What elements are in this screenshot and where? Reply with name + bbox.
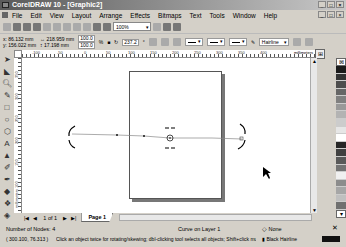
end-arrow-dropdown[interactable] — [229, 38, 247, 46]
color-swatch[interactable] — [336, 172, 346, 180]
print-icon[interactable] — [33, 23, 41, 31]
corel-online-icon[interactable] — [163, 23, 171, 31]
convert-outline-icon[interactable] — [305, 38, 313, 46]
menu-layout[interactable]: Layout — [72, 12, 92, 19]
color-swatch[interactable] — [336, 202, 346, 210]
color-swatch[interactable] — [336, 187, 346, 195]
color-swatch[interactable] — [336, 195, 346, 203]
ruler-tick: 300 — [14, 93, 19, 100]
horizontal-ruler[interactable]: -100 -50 0 50 100 150 200 250 300 350 40… — [22, 50, 315, 58]
ruler-origin[interactable] — [14, 50, 22, 58]
scale-x-field[interactable]: 100.0 — [78, 35, 95, 42]
cut-icon[interactable] — [43, 23, 51, 31]
doc-close-button[interactable]: × — [336, 11, 344, 18]
menu-tools[interactable]: Tools — [210, 12, 225, 19]
vertical-scrollbar[interactable]: ▲ ▼ — [310, 58, 317, 213]
prev-page-icon[interactable]: ◀ — [31, 215, 39, 221]
doc-minimize-button[interactable]: _ — [318, 11, 326, 18]
y-position-field[interactable]: 156.022 mm — [8, 42, 36, 48]
zoom-level-dropdown[interactable]: 100% — [113, 22, 151, 31]
height-field[interactable]: 17.198 mm — [44, 42, 69, 48]
whats-this-icon[interactable] — [173, 23, 181, 31]
color-swatch[interactable] — [336, 96, 346, 104]
menu-view[interactable]: View — [50, 12, 64, 19]
scroll-up-icon[interactable]: ▲ — [311, 58, 318, 64]
no-color-swatch[interactable]: ⊠ — [336, 58, 346, 66]
minimize-button[interactable]: _ — [318, 1, 326, 8]
color-swatch[interactable] — [336, 104, 346, 112]
first-page-icon[interactable]: |◀ — [22, 215, 31, 221]
selected-curve[interactable] — [22, 58, 310, 213]
color-swatch[interactable] — [336, 134, 346, 142]
drawing-canvas[interactable] — [22, 58, 310, 213]
undo-icon[interactable] — [73, 23, 81, 31]
menu-bitmaps[interactable]: Bitmaps — [158, 12, 181, 19]
color-swatch[interactable] — [336, 89, 346, 97]
color-swatch[interactable] — [336, 127, 346, 135]
close-button[interactable]: × — [336, 1, 344, 8]
open-icon[interactable] — [13, 23, 21, 31]
outline-width-dropdown[interactable]: Hairline — [259, 38, 289, 46]
interactive-blend-tool-icon[interactable]: ❖ — [3, 199, 12, 208]
menu-arrange[interactable]: Arrange — [99, 12, 122, 19]
pick-tool-icon[interactable]: ➤ — [3, 55, 12, 64]
text-tool-icon[interactable]: A — [3, 139, 12, 148]
wrap-text-icon[interactable] — [293, 38, 301, 46]
menu-file[interactable]: File — [12, 12, 22, 19]
mirror-icon[interactable] — [149, 38, 157, 46]
color-swatch[interactable] — [336, 81, 346, 89]
color-swatch[interactable] — [336, 149, 346, 157]
color-swatch[interactable] — [336, 66, 346, 74]
eyedropper-tool-icon[interactable]: ✐ — [3, 163, 12, 172]
color-swatch[interactable] — [336, 180, 346, 188]
scale-unit-label: % — [99, 39, 103, 45]
next-page-icon[interactable]: ▶ — [61, 215, 69, 221]
page-tab[interactable]: Page 1 — [81, 213, 113, 222]
lock-ratio-icon[interactable]: ■ — [107, 39, 110, 45]
import-icon[interactable] — [93, 23, 101, 31]
menu-help[interactable]: Help — [264, 12, 277, 19]
menu-effects[interactable]: Effects — [130, 12, 150, 19]
zoom-tool-icon[interactable]: 🔍︎ — [3, 79, 12, 88]
palette-scroll-down-icon[interactable]: ▾ — [336, 210, 346, 218]
fill-tool-icon[interactable]: ◆ — [3, 187, 12, 196]
close-curve-icon[interactable] — [173, 38, 181, 46]
polygon-tool-icon[interactable]: ⬡ — [3, 127, 12, 136]
menu-text[interactable]: Text — [190, 12, 202, 19]
scale-y-field[interactable]: 100.0 — [78, 42, 95, 49]
save-icon[interactable] — [23, 23, 31, 31]
paste-icon[interactable] — [63, 23, 71, 31]
rectangle-tool-icon[interactable]: □ — [3, 103, 12, 112]
menu-edit[interactable]: Edit — [30, 12, 41, 19]
rotation-field[interactable]: 237.2 — [122, 39, 139, 46]
document-icon[interactable] — [2, 12, 8, 18]
copy-icon[interactable] — [53, 23, 61, 31]
ellipse-tool-icon[interactable]: ○ — [3, 115, 12, 124]
scroll-down-icon[interactable]: ▼ — [311, 207, 318, 213]
color-swatch[interactable] — [336, 157, 346, 165]
maximize-button[interactable]: □ — [327, 1, 335, 8]
export-icon[interactable] — [103, 23, 111, 31]
color-swatch[interactable] — [336, 74, 346, 82]
color-swatch[interactable] — [336, 119, 346, 127]
freehand-tool-icon[interactable]: ✎ — [3, 91, 12, 100]
doc-restore-button[interactable]: □ — [327, 11, 335, 18]
to-curve-icon[interactable] — [161, 38, 169, 46]
redo-icon[interactable] — [83, 23, 91, 31]
vertical-ruler[interactable]: 350 300 250 200 150 100 millimeters — [14, 58, 22, 213]
shape-tool-icon[interactable]: ◣ — [3, 67, 12, 76]
color-swatch[interactable] — [336, 111, 346, 119]
color-swatch[interactable] — [336, 142, 346, 150]
start-arrow-dropdown[interactable] — [185, 38, 203, 46]
horizontal-scrollbar[interactable] — [119, 214, 312, 221]
new-icon[interactable] — [3, 23, 11, 31]
color-swatch[interactable] — [336, 165, 346, 173]
last-page-icon[interactable]: ▶| — [69, 215, 78, 221]
line-style-dropdown[interactable] — [207, 38, 225, 46]
menu-window[interactable]: Window — [233, 12, 256, 19]
outline-pen-icon[interactable]: ✎ — [251, 39, 255, 45]
outline-tool-icon[interactable]: ✒ — [3, 175, 12, 184]
transparency-tool-icon[interactable]: ◈ — [3, 211, 12, 220]
application-launcher-icon[interactable] — [153, 23, 161, 31]
interactive-fill-tool-icon[interactable]: ▲ — [3, 151, 12, 160]
